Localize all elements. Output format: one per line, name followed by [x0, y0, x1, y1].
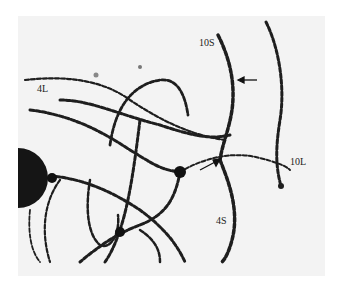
chromosome-drawing [18, 16, 325, 276]
label-10S: 10S [199, 38, 215, 48]
micrograph-frame [18, 16, 325, 276]
label-4S: 4S [216, 216, 227, 226]
label-4L: 4L [37, 84, 48, 94]
label-10L: 10L [290, 157, 306, 167]
